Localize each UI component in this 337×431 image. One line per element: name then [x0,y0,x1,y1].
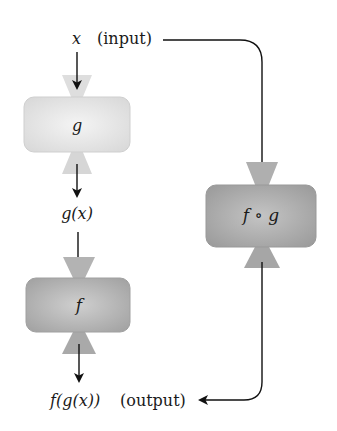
composite-to-output-arrow [200,262,262,400]
intermediate-label: g(x) [61,204,93,223]
box-composite-label: f ∘ g [241,205,279,225]
composition-diagram: x (input) g g(x) f f ∘ g f(g(x)) (output… [0,0,337,431]
input-label: (input) [97,29,152,48]
machine-composite: f ∘ g [206,162,316,268]
input-to-composite-arrow [163,40,262,196]
box-g-label: g [72,116,82,135]
machine-g: g [24,75,130,174]
output-label: (output) [120,391,186,410]
machine-f: f [26,257,130,354]
output-expression: f(g(x)) [49,391,100,410]
input-variable: x [72,29,81,48]
